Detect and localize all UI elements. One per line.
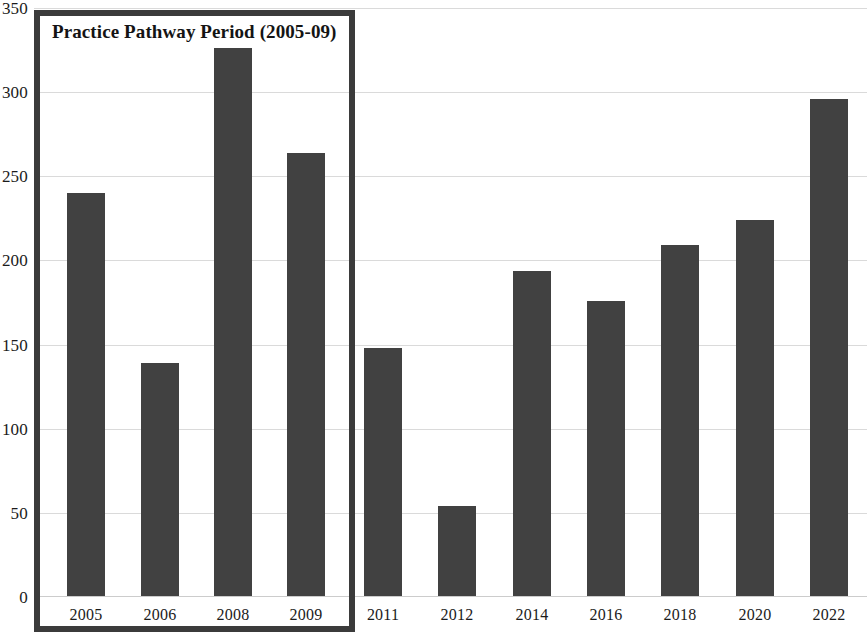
x-axis-tick: 2012 <box>422 607 492 623</box>
gridline <box>34 176 867 177</box>
y-axis-tick: 200 <box>2 252 28 269</box>
y-axis-tick: 0 <box>19 589 28 606</box>
bar <box>364 348 402 597</box>
bar <box>810 99 848 597</box>
x-axis-tick: 2022 <box>794 607 864 623</box>
bar <box>287 153 325 597</box>
x-axis-tick: 2008 <box>198 607 268 623</box>
y-axis-tick: 50 <box>11 504 28 521</box>
bar <box>214 48 252 597</box>
bar <box>513 271 551 597</box>
bar <box>438 506 476 597</box>
bar <box>587 301 625 597</box>
x-axis-tick: 2018 <box>645 607 715 623</box>
y-axis-tick: 150 <box>2 336 28 353</box>
x-axis-tick: 2014 <box>497 607 567 623</box>
gridline <box>34 8 867 9</box>
bar <box>141 363 179 597</box>
x-axis-tick: 2011 <box>348 607 418 623</box>
practice-pathway-period-label: Practice Pathway Period (2005-09) <box>52 22 337 41</box>
x-axis: 2005200620082009201120122014201620182020… <box>34 597 867 640</box>
gridline <box>34 92 867 93</box>
x-axis-tick: 2006 <box>125 607 195 623</box>
y-axis-tick: 250 <box>2 168 28 185</box>
x-axis-tick: 2009 <box>271 607 341 623</box>
bar <box>661 245 699 597</box>
y-axis-tick: 300 <box>2 84 28 101</box>
plot-area <box>34 8 867 597</box>
y-axis-tick: 350 <box>2 0 28 17</box>
x-axis-tick: 2016 <box>571 607 641 623</box>
bar-chart: 350 300 250 200 150 100 50 0 20052006200… <box>0 0 867 640</box>
y-axis-tick: 100 <box>2 420 28 437</box>
y-axis: 350 300 250 200 150 100 50 0 <box>0 0 34 640</box>
x-axis-tick: 2020 <box>720 607 790 623</box>
bar <box>67 193 105 597</box>
x-axis-tick: 2005 <box>51 607 121 623</box>
bar <box>736 220 774 597</box>
